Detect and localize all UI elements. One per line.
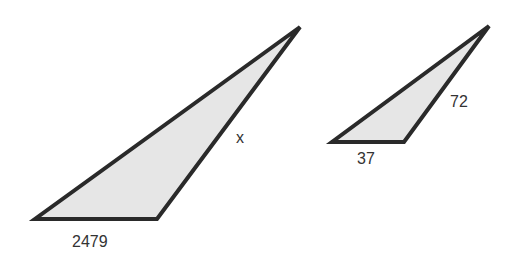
- large-base-label: 2479: [72, 233, 108, 250]
- triangles-figure: 2479 x 37 72: [0, 0, 515, 253]
- small-side-label: 72: [450, 93, 468, 110]
- large-triangle: [35, 27, 300, 219]
- small-base-label: 37: [357, 150, 375, 167]
- diagram-canvas: 2479 x 37 72: [0, 0, 515, 253]
- large-side-label: x: [236, 129, 244, 146]
- small-triangle: [332, 26, 489, 142]
